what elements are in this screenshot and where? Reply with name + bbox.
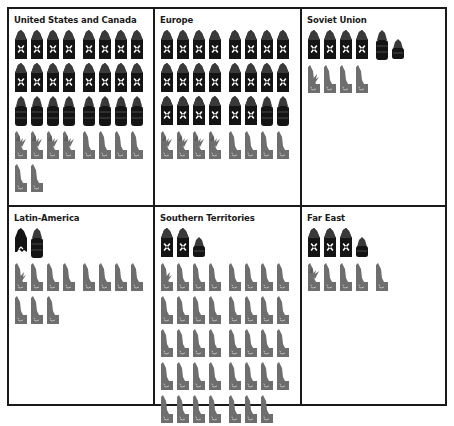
agriculture-icon	[355, 261, 369, 291]
barrel-icon	[30, 228, 44, 258]
factory-icon	[114, 30, 128, 60]
factory-icon	[323, 30, 337, 60]
agriculture-icon	[192, 360, 206, 390]
factory-icon	[82, 63, 96, 93]
factory-icon	[98, 63, 112, 93]
factory-icon	[46, 63, 60, 93]
pictogram-row	[160, 327, 296, 360]
pictogram-row	[14, 294, 150, 327]
pictogram-row	[160, 294, 296, 327]
agriculture-icon	[228, 327, 242, 357]
agriculture-icon	[208, 294, 222, 324]
pictogram-area	[307, 30, 443, 96]
pictogram-row	[14, 261, 150, 294]
agriculture-icon	[208, 327, 222, 357]
mixed-agriculture-icon	[176, 129, 190, 159]
agriculture-icon	[260, 294, 274, 324]
factory-icon	[260, 63, 274, 93]
factory-icon	[228, 30, 242, 60]
agriculture-icon	[244, 294, 258, 324]
half-factory-icon	[14, 228, 28, 258]
pictogram-area	[160, 30, 296, 162]
barrel-icon	[114, 96, 128, 126]
agriculture-icon	[192, 327, 206, 357]
region-cell-latin-america: Latin-America	[9, 207, 155, 404]
barrel-icon	[14, 96, 28, 126]
factory-icon	[14, 63, 28, 93]
pictogram-row	[307, 261, 443, 294]
factory-icon	[130, 30, 144, 60]
pictogram-row	[14, 228, 150, 261]
agriculture-icon	[14, 294, 28, 324]
factory-icon	[114, 63, 128, 93]
region-title: United States and Canada	[14, 15, 137, 25]
factory-icon	[323, 228, 337, 258]
agriculture-icon	[228, 261, 242, 291]
mixed-agriculture-icon	[46, 129, 60, 159]
agriculture-icon	[176, 327, 190, 357]
mixed-agriculture-icon	[192, 129, 206, 159]
agriculture-icon	[46, 261, 60, 291]
barrel-icon	[130, 96, 144, 126]
factory-icon	[160, 228, 174, 258]
factory-icon	[98, 30, 112, 60]
factory-icon	[355, 30, 369, 60]
agriculture-icon	[62, 261, 76, 291]
factory-icon	[46, 30, 60, 60]
agriculture-icon	[375, 261, 389, 291]
factory-icon	[307, 30, 321, 60]
mixed-agriculture-icon	[307, 261, 321, 291]
agriculture-icon	[323, 63, 337, 93]
factory-icon	[130, 63, 144, 93]
half-barrel-icon	[192, 228, 206, 258]
pictogram-row	[160, 96, 296, 129]
factory-icon	[192, 30, 206, 60]
factory-icon	[176, 63, 190, 93]
region-title: Europe	[160, 15, 193, 25]
pictogram-row	[160, 261, 296, 294]
agriculture-icon	[82, 129, 96, 159]
agriculture-icon	[30, 261, 44, 291]
pictogram-row	[14, 162, 150, 195]
barrel-icon	[46, 96, 60, 126]
agriculture-icon	[260, 129, 274, 159]
barrel-icon	[82, 96, 96, 126]
agriculture-icon	[98, 261, 112, 291]
factory-icon	[176, 228, 190, 258]
agriculture-icon	[339, 261, 353, 291]
agriculture-icon	[176, 360, 190, 390]
factory-icon	[339, 228, 353, 258]
region-title: Soviet Union	[307, 15, 367, 25]
factory-icon	[244, 30, 258, 60]
barrel-icon	[30, 96, 44, 126]
pictogram-area	[307, 228, 443, 294]
agriculture-icon	[192, 261, 206, 291]
agriculture-icon	[260, 327, 274, 357]
region-cell-europe: Europe	[155, 9, 302, 207]
agriculture-icon	[276, 360, 290, 390]
factory-icon	[276, 63, 290, 93]
agriculture-icon	[276, 261, 290, 291]
factory-icon	[228, 63, 242, 93]
region-cell-soviet-union: Soviet Union	[302, 9, 445, 207]
factory-icon	[160, 63, 174, 93]
factory-icon	[30, 63, 44, 93]
agriculture-icon	[208, 360, 222, 390]
pictogram-row	[160, 360, 296, 393]
agriculture-icon	[260, 393, 274, 423]
region-cell-us-canada: United States and Canada	[9, 9, 155, 207]
mixed-agriculture-icon	[14, 129, 28, 159]
agriculture-icon	[98, 129, 112, 159]
barrel-icon	[276, 96, 290, 126]
agriculture-icon	[192, 294, 206, 324]
agriculture-icon	[228, 129, 242, 159]
factory-icon	[208, 63, 222, 93]
factory-icon	[176, 30, 190, 60]
agriculture-icon	[130, 261, 144, 291]
agriculture-icon	[208, 261, 222, 291]
pictogram-row	[14, 63, 150, 96]
agriculture-icon	[176, 261, 190, 291]
agriculture-icon	[260, 360, 274, 390]
pictogram-row	[160, 228, 296, 261]
pictogram-row	[307, 30, 443, 63]
